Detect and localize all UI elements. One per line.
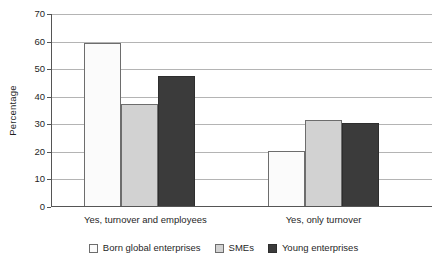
x-axis-category-label: Yes, only turnover xyxy=(268,214,379,225)
bar xyxy=(305,120,342,207)
bar xyxy=(342,123,379,207)
bar xyxy=(84,43,121,207)
legend-item[interactable]: SMEs xyxy=(215,243,254,253)
bar xyxy=(121,104,158,207)
legend-item[interactable]: Young enterprises xyxy=(268,243,358,253)
y-axis-tick-label: 40 xyxy=(19,92,45,102)
legend-swatch-icon xyxy=(268,244,277,253)
y-axis-tick-labels: 010203040506070 xyxy=(15,14,45,207)
legend-swatch-icon xyxy=(215,244,224,253)
bar xyxy=(268,151,305,207)
legend-item[interactable]: Born global enterprises xyxy=(89,243,201,253)
y-axis-tick-label: 50 xyxy=(19,64,45,74)
y-axis-tick-label: 20 xyxy=(19,147,45,157)
y-axis-tick-label: 70 xyxy=(19,9,45,19)
legend: Born global enterprisesSMEsYoung enterpr… xyxy=(0,239,447,257)
legend-swatch-icon xyxy=(89,244,98,253)
legend-label: Young enterprises xyxy=(282,243,358,253)
x-axis-line xyxy=(51,206,432,207)
legend-label: Born global enterprises xyxy=(103,243,201,253)
bar-chart: Percentage 010203040506070 Yes, turnover… xyxy=(0,0,447,267)
y-axis-tick-label: 0 xyxy=(19,202,45,212)
y-axis-line xyxy=(51,14,52,207)
bar xyxy=(158,76,195,207)
y-axis-tick-label: 60 xyxy=(19,37,45,47)
y-axis-tick-label: 30 xyxy=(19,119,45,129)
x-axis-category-label: Yes, turnover and employees xyxy=(84,214,195,225)
y-axis-tick-label: 10 xyxy=(19,174,45,184)
gridline xyxy=(51,14,432,15)
legend-label: SMEs xyxy=(229,243,254,253)
y-axis-tick xyxy=(47,207,51,208)
plot-area xyxy=(51,14,432,207)
